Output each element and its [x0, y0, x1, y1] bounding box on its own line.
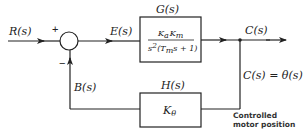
annotation-line-2: motor position: [233, 120, 295, 129]
feedback-block-h: H(s) Kθ: [140, 79, 201, 127]
error-label: E(s): [109, 25, 132, 38]
output-equation: C(s) = θ(s): [243, 69, 303, 82]
feedback-block-title: H(s): [160, 79, 185, 92]
annotation: Controlled motor position: [233, 111, 295, 129]
annotation-line-1: Controlled: [233, 111, 277, 120]
output-label: C(s): [245, 24, 268, 37]
feedback-signal-label: B(s): [73, 81, 96, 94]
forward-block-numerator: KaKm: [157, 29, 184, 40]
plus-sign: +: [52, 23, 58, 35]
forward-block-title: G(s): [156, 3, 179, 16]
output-signal: C(s): [201, 24, 286, 42]
input-label: R(s): [8, 25, 32, 38]
error-signal: E(s): [78, 25, 140, 41]
feedback-return: B(s): [70, 50, 140, 109]
forward-block-g: G(s) KaKm s2(Tms + 1): [140, 3, 201, 62]
feedback-path: C(s) = θ(s): [201, 40, 303, 109]
block-diagram: R(s) + − E(s) G(s) KaKm s2(Tms + 1) C(s): [0, 0, 303, 136]
summing-junction: + −: [52, 23, 78, 69]
minus-sign: −: [59, 57, 65, 69]
